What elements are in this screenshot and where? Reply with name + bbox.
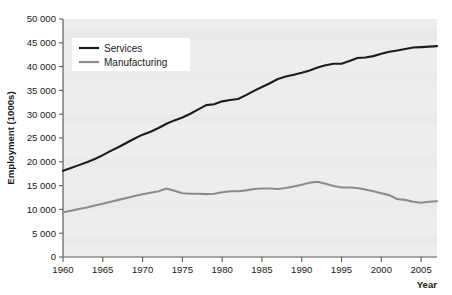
y-tick-label: 35 000 bbox=[27, 85, 56, 96]
x-tick-label: 2005 bbox=[410, 264, 431, 275]
y-tick-label: 45 000 bbox=[27, 37, 56, 48]
x-tick-label: 1990 bbox=[291, 264, 312, 275]
chart-legend: Services Manufacturing bbox=[72, 38, 190, 71]
y-tick-label: 5 000 bbox=[32, 228, 56, 239]
x-tick-label: 2000 bbox=[371, 264, 392, 275]
legend-label-manufacturing: Manufacturing bbox=[104, 57, 167, 68]
y-tick-label: 20 000 bbox=[27, 156, 56, 167]
x-axis-title: Year bbox=[417, 279, 438, 290]
x-tick-label: 1965 bbox=[92, 264, 113, 275]
y-tick-label: 50 000 bbox=[27, 13, 56, 24]
x-tick-label: 1985 bbox=[251, 264, 272, 275]
x-tick-label: 1970 bbox=[132, 264, 153, 275]
x-tick-label: 1995 bbox=[331, 264, 352, 275]
chart-canvas: 05 00010 00015 00020 00025 00030 00035 0… bbox=[0, 0, 452, 295]
legend-label-services: Services bbox=[104, 43, 142, 54]
y-tick-label: 10 000 bbox=[27, 204, 56, 215]
y-tick-label: 25 000 bbox=[27, 132, 56, 143]
y-tick-label: 0 bbox=[51, 251, 56, 262]
y-axis-ticks: 05 00010 00015 00020 00025 00030 00035 0… bbox=[27, 13, 63, 262]
x-tick-label: 1960 bbox=[52, 264, 73, 275]
y-tick-label: 30 000 bbox=[27, 109, 56, 120]
y-tick-label: 15 000 bbox=[27, 180, 56, 191]
employment-line-chart-figure: 05 00010 00015 00020 00025 00030 00035 0… bbox=[0, 0, 452, 295]
x-tick-label: 1975 bbox=[172, 264, 193, 275]
y-axis-title: Employment (1000s) bbox=[5, 91, 16, 184]
x-tick-label: 1980 bbox=[211, 264, 232, 275]
y-tick-label: 40 000 bbox=[27, 61, 56, 72]
x-axis-ticks: 1960196519701975198019851990199520002005 bbox=[52, 257, 431, 275]
